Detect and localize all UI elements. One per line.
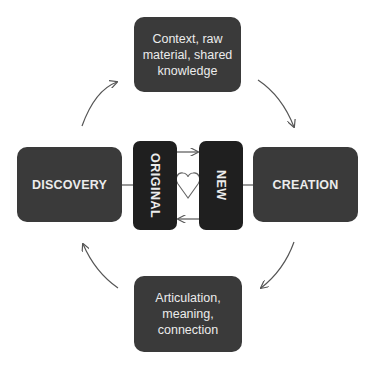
context-node-line-3: knowledge: [143, 63, 233, 79]
original-label: ORIGINAL: [148, 153, 162, 218]
new-node: NEW: [199, 141, 243, 230]
new-label: NEW: [214, 170, 228, 201]
articulation-node-line-2: meaning,: [155, 306, 220, 322]
heart-icon: [176, 173, 199, 198]
arrow-discovery-to-context: [82, 82, 117, 126]
creation-node: CREATION: [253, 147, 358, 222]
context-node: Context, raw material, shared knowledge: [134, 17, 241, 92]
arrow-creation-to-articulation: [261, 242, 294, 288]
discovery-node: DISCOVERY: [17, 147, 122, 222]
arrow-context-to-creation: [258, 80, 294, 127]
articulation-node-line-1: Articulation,: [155, 290, 220, 306]
articulation-node: Articulation, meaning, connection: [134, 276, 242, 352]
creation-label: CREATION: [273, 178, 339, 192]
original-node: ORIGINAL: [133, 141, 177, 230]
discovery-label: DISCOVERY: [32, 178, 107, 192]
arrow-articulation-to-discovery: [83, 244, 118, 288]
articulation-node-line-3: connection: [155, 322, 220, 338]
context-node-line-2: material, shared: [143, 47, 233, 63]
context-node-line-1: Context, raw: [143, 31, 233, 47]
